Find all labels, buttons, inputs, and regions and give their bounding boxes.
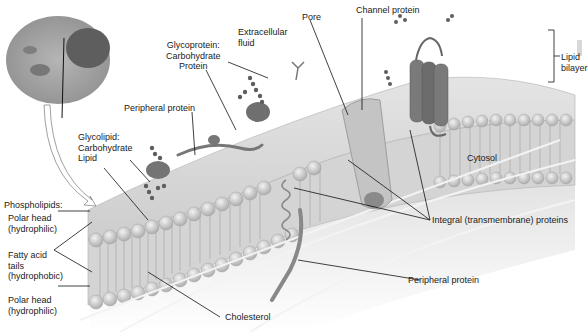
label-polar-head-bottom: Polar head (hydrophilic) (8, 295, 57, 316)
label-integral-proteins: Integral (transmembrane) proteins (432, 215, 568, 226)
cell-inset-illustration (6, 16, 110, 118)
label-glycolipid: Glycolipid: Carbohydrate Lipid (78, 132, 133, 164)
label-pore: Pore (302, 12, 321, 23)
label-channel-protein: Channel protein (356, 5, 420, 16)
channel-protein (410, 38, 448, 136)
label-extracellular-fluid: Extracellular fluid (238, 27, 288, 48)
label-polar-head-top: Polar head (hydrophilic) (8, 213, 57, 234)
label-fatty-acid-tails: Fatty acid tails (hydrophobic) (8, 250, 63, 282)
label-lipid-bilayer: Lipid bilayer (561, 52, 588, 73)
label-glycoprotein: Glycoprotein: Carbohydrate Protein (166, 40, 221, 72)
label-peripheral-protein-top: Peripheral protein (124, 103, 195, 114)
y-shaped-carbohydrate (292, 62, 304, 80)
label-peripheral-protein-bottom: Peripheral protein (408, 275, 479, 286)
label-phospholipids: Phospholipids: (4, 200, 63, 211)
label-cholesterol: Cholesterol (225, 312, 271, 323)
label-cytosol: Cytosol (467, 153, 497, 164)
